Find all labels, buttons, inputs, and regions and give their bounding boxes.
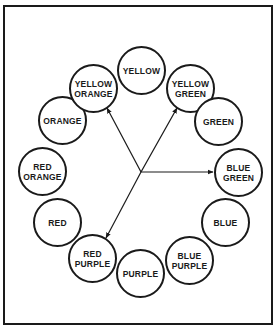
arrow-to-red-purple [106, 172, 141, 238]
arrow-to-yellow-orange [107, 108, 141, 172]
color-label: ORANGE [43, 116, 82, 126]
color-circle-blue-purple: BLUE PURPLE [165, 236, 214, 285]
color-label: RED [48, 218, 67, 228]
color-label: RED ORANGE [23, 162, 62, 182]
color-circle-yellow: YELLOW [117, 46, 166, 95]
color-circle-blue: BLUE [201, 198, 250, 247]
color-label: YELLOW GREEN [172, 79, 210, 99]
color-circle-red-purple: RED PURPLE [68, 234, 117, 283]
color-label: YELLOW ORANGE [74, 79, 113, 99]
color-circle-red-orange: RED ORANGE [18, 147, 67, 196]
color-label: YELLOW [123, 66, 161, 76]
color-label: GREEN [203, 117, 234, 127]
color-circle-red: RED [33, 198, 82, 247]
color-circle-green: GREEN [194, 97, 243, 146]
color-circle-blue-green: BLUE GREEN [214, 148, 263, 197]
color-label: BLUE GREEN [223, 163, 254, 183]
arrow-to-yellow-green [141, 108, 177, 172]
color-circle-yellow-orange: YELLOW ORANGE [69, 64, 118, 113]
color-label: BLUE [214, 218, 238, 228]
color-label: RED PURPLE [75, 249, 111, 269]
color-label: PURPLE [123, 269, 159, 279]
color-circle-purple: PURPLE [116, 249, 165, 298]
color-label: BLUE PURPLE [172, 251, 208, 271]
